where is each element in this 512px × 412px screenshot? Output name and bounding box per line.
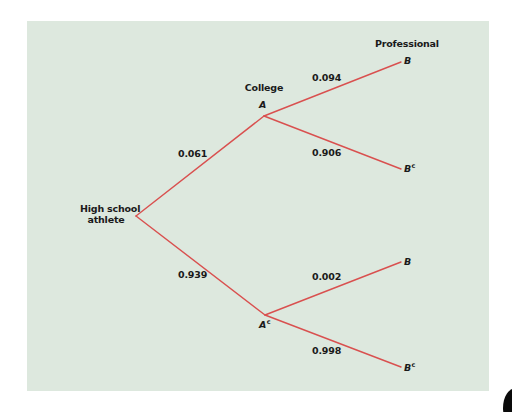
professional-stage-label: Professional	[375, 39, 435, 50]
branch-Ac-to-Bc	[265, 315, 401, 367]
node-B-top: B	[404, 56, 411, 67]
prob-Ac-to-Bc: 0.998	[312, 346, 341, 357]
branch-Ac-to-B	[265, 262, 401, 315]
node-B-complement-top: Bc	[404, 163, 415, 175]
complement-superscript: c	[412, 361, 416, 369]
root-label-line2: athlete	[80, 215, 132, 226]
complement-superscript: c	[267, 318, 271, 326]
branch-root-to-Ac	[136, 216, 265, 315]
branch-A-to-Bc	[264, 116, 401, 169]
node-A: A	[259, 100, 266, 111]
tree-diagram-stage: High school athlete College Professional…	[0, 0, 512, 412]
node-B-bottom: B	[404, 257, 411, 268]
node-A-complement: Ac	[259, 319, 270, 331]
prob-A-to-Bc: 0.906	[312, 148, 341, 159]
prob-root-to-Ac: 0.939	[178, 270, 207, 281]
prob-Ac-to-B: 0.002	[312, 272, 341, 283]
root-label: High school athlete	[80, 204, 132, 226]
branch-A-to-B	[264, 62, 401, 116]
prob-root-to-A: 0.061	[178, 149, 207, 160]
complement-superscript: c	[412, 162, 416, 170]
prob-A-to-B: 0.094	[312, 73, 341, 84]
node-B-complement-bottom: Bc	[404, 362, 415, 374]
branch-lines	[0, 0, 512, 412]
college-stage-label: College	[244, 83, 284, 94]
branch-root-to-A	[136, 116, 264, 216]
